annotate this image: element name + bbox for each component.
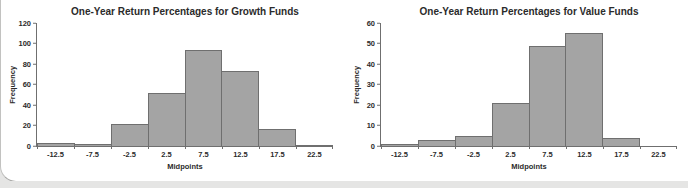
x-tick-label: -7.5: [418, 151, 455, 159]
y-tick: 20: [23, 122, 36, 130]
histogram-bar: [185, 50, 223, 146]
x-tick-label: -12.5: [381, 151, 418, 159]
y-tick: 50: [367, 40, 380, 48]
y-tick: 30: [367, 81, 380, 89]
y-tick-label: 120: [18, 19, 31, 27]
y-tick-label: 40: [23, 101, 31, 109]
y-tick-mark: [33, 105, 36, 106]
y-tick-mark: [33, 84, 36, 85]
histogram-bar: [221, 71, 259, 146]
growth-funds-chart: One-Year Return Percentages for Growth F…: [0, 0, 344, 178]
y-tick-label: 10: [367, 122, 375, 130]
x-tick-mark: [222, 146, 223, 149]
y-axis-title-text: Frequency: [9, 66, 17, 104]
y-tick: 80: [23, 60, 36, 68]
y-tick: 20: [367, 101, 380, 109]
x-tick-label: -2.5: [455, 151, 492, 159]
chart-title: One-Year Return Percentages for Growth F…: [36, 6, 334, 17]
x-tick-labels: -12.5-7.5-2.52.57.512.517.522.5: [381, 151, 677, 159]
histogram-bar: [529, 46, 567, 146]
x-tick-label: -12.5: [37, 151, 74, 159]
histogram-bar: [565, 33, 603, 146]
x-tick-label: 7.5: [529, 151, 566, 159]
y-tick: 0: [27, 142, 36, 150]
x-tick-mark: [296, 146, 297, 149]
x-tick-mark: [332, 146, 333, 149]
y-tick: 120: [18, 19, 36, 27]
y-tick-label: 0: [27, 142, 31, 150]
y-tick-mark: [33, 146, 36, 147]
chart-title: One-Year Return Percentages for Value Fu…: [380, 6, 678, 17]
y-tick-mark: [33, 125, 36, 126]
y-tick: 0: [371, 142, 380, 150]
histogram-bar: [492, 103, 530, 146]
x-tick-labels: -12.5-7.5-2.52.57.512.517.522.5: [37, 151, 333, 159]
plot-area: Frequency -12.5-7.5-2.52.57.512.517.522.…: [380, 23, 677, 147]
histogram-bar: [111, 124, 149, 146]
histogram-bar: [148, 93, 186, 146]
y-axis-title: Frequency: [351, 23, 363, 146]
x-tick-label: 17.5: [259, 151, 296, 159]
x-tick-mark: [455, 146, 456, 149]
y-axis-title: Frequency: [7, 23, 19, 146]
y-tick-mark: [377, 84, 380, 85]
x-tick-mark: [640, 146, 641, 149]
x-tick-mark: [603, 146, 604, 149]
x-tick-mark: [148, 146, 149, 149]
histogram-bars: [37, 23, 333, 146]
y-tick-mark: [377, 125, 380, 126]
x-tick-mark: [418, 146, 419, 149]
x-tick-label: 2.5: [148, 151, 185, 159]
x-tick-label: 22.5: [296, 151, 333, 159]
plot-area: Frequency -12.5-7.5-2.52.57.512.517.522.…: [36, 23, 333, 147]
y-tick: 60: [367, 19, 380, 27]
y-tick-label: 50: [367, 40, 375, 48]
y-tick: 60: [23, 81, 36, 89]
x-tick-label: 7.5: [185, 151, 222, 159]
x-tick-mark: [529, 146, 530, 149]
y-tick: 40: [367, 60, 380, 68]
y-tick-mark: [377, 146, 380, 147]
y-tick-label: 60: [23, 81, 31, 89]
x-tick-mark: [492, 146, 493, 149]
y-tick-mark: [33, 43, 36, 44]
x-tick-label: 12.5: [222, 151, 259, 159]
histogram-bar: [455, 136, 493, 146]
y-tick-mark: [377, 43, 380, 44]
x-axis-title: Midpoints: [37, 163, 333, 171]
y-tick-label: 100: [18, 40, 31, 48]
x-tick-mark: [37, 146, 38, 149]
y-tick-label: 60: [367, 19, 375, 27]
x-tick-mark: [185, 146, 186, 149]
histogram-bar: [258, 129, 296, 146]
x-tick-label: -2.5: [111, 151, 148, 159]
x-tick-mark: [74, 146, 75, 149]
x-tick-label: -7.5: [74, 151, 111, 159]
histogram-bar: [381, 144, 419, 146]
y-tick-label: 40: [367, 60, 375, 68]
page-bottom-edge: [0, 181, 688, 188]
x-tick-label: 2.5: [492, 151, 529, 159]
histogram-bars: [381, 23, 677, 146]
histogram-bar: [295, 145, 333, 146]
x-tick-mark: [111, 146, 112, 149]
x-axis-title: Midpoints: [381, 163, 677, 171]
x-tick-label: 17.5: [603, 151, 640, 159]
y-tick-mark: [33, 64, 36, 65]
y-tick-label: 80: [23, 60, 31, 68]
x-tick-mark: [676, 146, 677, 149]
x-tick-mark: [566, 146, 567, 149]
y-tick-mark: [377, 64, 380, 65]
x-tick-label: 22.5: [640, 151, 677, 159]
value-funds-chart: One-Year Return Percentages for Value Fu…: [344, 0, 688, 178]
y-tick: 40: [23, 101, 36, 109]
y-tick-mark: [377, 105, 380, 106]
y-tick: 10: [367, 122, 380, 130]
y-tick-mark: [33, 23, 36, 24]
histogram-bar: [418, 140, 456, 146]
histogram-bar: [602, 138, 640, 146]
histogram-bar: [74, 144, 112, 146]
histogram-bar: [37, 143, 75, 146]
y-tick-label: 0: [371, 142, 375, 150]
y-tick: 100: [18, 40, 36, 48]
